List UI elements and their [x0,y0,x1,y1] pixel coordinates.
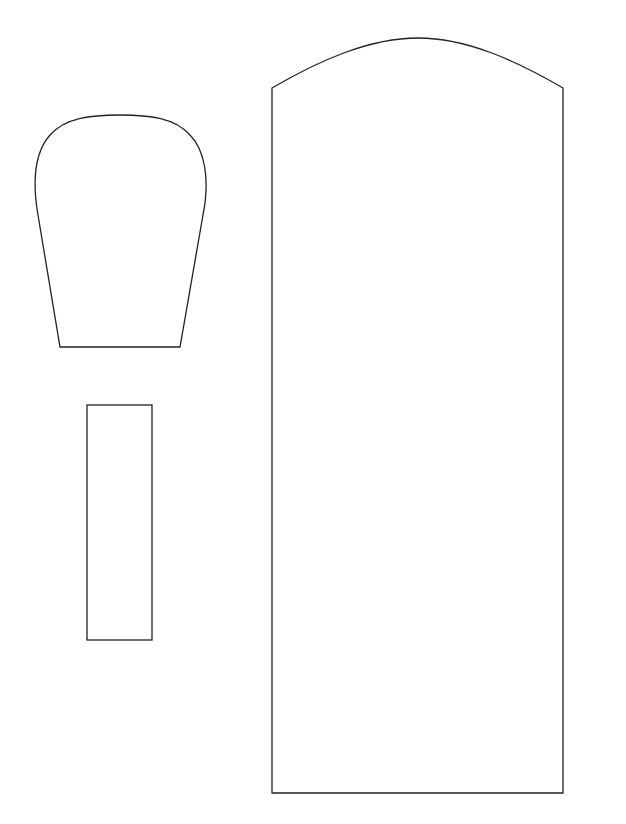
narrow-rectangle-shape [87,405,152,640]
arched-tall-panel-shape [272,38,563,793]
rounded-top-trapezoid-shape [35,115,206,347]
template-canvas [0,0,626,824]
